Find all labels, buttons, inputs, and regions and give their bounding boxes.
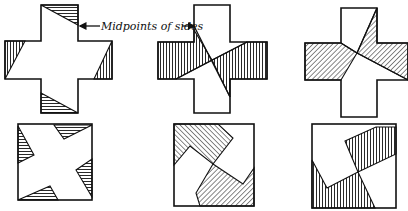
- hatched-triangle-top: [41, 5, 78, 25]
- hatched-region-bottom: [196, 164, 254, 206]
- cross-figure-1: [5, 5, 112, 113]
- hatched-region-left: [158, 30, 212, 79]
- dissection-diagram: Midpoints of sides: [0, 0, 408, 211]
- hatched-triangle-left: [5, 41, 25, 79]
- hatched-region-top: [174, 124, 233, 165]
- hatched-region-top: [357, 8, 408, 80]
- hatched-region-top-right: [345, 127, 396, 172]
- midpoints-annotation: Midpoints of sides: [80, 20, 204, 33]
- hatched-triangle-bottom: [41, 93, 78, 113]
- hatched-region-right: [212, 42, 267, 97]
- hatched-triangle-bottom: [18, 186, 58, 200]
- square-figure-2: [174, 124, 254, 206]
- hatched-triangle-left: [18, 126, 34, 163]
- hatched-triangle-top: [54, 125, 92, 139]
- square-figure-1: [18, 124, 92, 200]
- cross-outline: [5, 5, 112, 113]
- hatched-triangle-right: [76, 159, 92, 197]
- square-outline: [18, 124, 92, 200]
- hatched-triangle-right: [94, 41, 112, 79]
- square-figure-3: [312, 124, 396, 208]
- cross-figure-3: [305, 8, 408, 117]
